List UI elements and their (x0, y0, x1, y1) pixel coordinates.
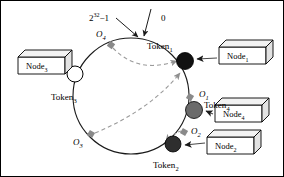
ring-marker-O1 (186, 93, 194, 101)
ring-marker-label-O2: O2 (191, 127, 201, 138)
ring-marker-label-O3: O3 (73, 138, 83, 149)
zero-label: 0 (161, 14, 166, 23)
max-key-arrow (116, 18, 138, 37)
ring-marker-O4 (107, 41, 115, 49)
node-label-Node2: Node2 (215, 141, 236, 153)
token-label-Token1: Token1 (147, 42, 173, 53)
arrow-node2-to-token2 (185, 143, 205, 145)
token-label-Token2: Token2 (153, 161, 179, 172)
token-circle-Token2 (165, 136, 181, 152)
node-label-Node3: Node3 (26, 61, 47, 73)
node-label-Node4: Node4 (223, 109, 244, 121)
token-circle-Token4 (186, 102, 203, 119)
figure-frame: 232−1 0 O4 O1 O2 O3 Token1 Token2 Token3… (0, 0, 284, 177)
arrow-node1-to-token1 (197, 58, 217, 59)
token-label-Token3: Token3 (51, 93, 77, 104)
token-circle-Token1 (177, 53, 194, 70)
ring-diagram-svg (1, 1, 284, 177)
diagram-canvas: 232−1 0 O4 O1 O2 O3 Token1 Token2 Token3… (1, 1, 284, 177)
ring-marker-label-O4: O4 (96, 30, 106, 41)
ring-marker-O3 (87, 130, 95, 138)
route-o3-to-token1 (95, 73, 180, 133)
max-key-label: 232−1 (89, 12, 109, 23)
ring-marker-O2 (180, 128, 188, 136)
zero-arrow (144, 9, 151, 36)
node-label-Node1: Node1 (227, 51, 248, 63)
